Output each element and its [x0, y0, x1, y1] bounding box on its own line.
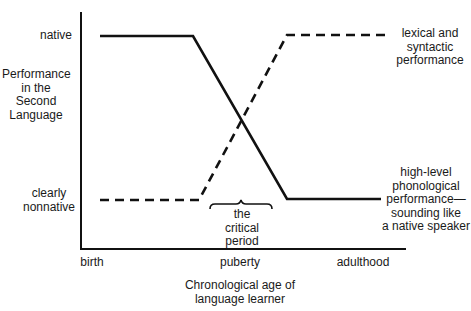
phonological-label: high-level phonological performance— sou… — [381, 166, 471, 234]
series-label-line: a native speaker — [381, 220, 471, 234]
series-label-line: syntactic — [390, 41, 470, 55]
lexical-syntactic-performance-line — [100, 35, 386, 200]
y-top-label: native — [30, 29, 72, 43]
y-axis-title-line: in the — [2, 82, 70, 96]
critical-period-line: critical — [214, 222, 270, 236]
y-axis-title-line: Second — [2, 95, 70, 109]
x-axis-title-line: language learner — [175, 293, 305, 307]
series-label-line: phonological — [381, 180, 471, 194]
x-axis-title: Chronological age of language learner — [175, 279, 305, 306]
critical-period-line: the — [214, 208, 270, 222]
series-label-line: lexical and — [390, 27, 470, 41]
series-label-line: high-level — [381, 166, 471, 180]
x-tick-birth: birth — [72, 256, 112, 270]
series-label-line: performance — [390, 54, 470, 68]
series-label-line: performance— — [381, 193, 471, 207]
y-bottom-label-line: nonnative — [22, 201, 76, 215]
series-label-line: sounding like — [381, 207, 471, 221]
x-tick-puberty: puberty — [212, 256, 268, 270]
y-bottom-label-line: clearly — [22, 187, 76, 201]
phonological-performance-line — [100, 36, 381, 199]
critical-period-label: the critical period — [214, 208, 270, 249]
y-axis-title-line: Performance — [2, 68, 70, 82]
y-bottom-label: clearly nonnative — [22, 187, 76, 214]
y-axis-title-line: Language — [2, 109, 70, 123]
x-tick-adulthood: adulthood — [328, 256, 398, 270]
x-axis-title-line: Chronological age of — [175, 279, 305, 293]
y-axis-title: Performance in the Second Language — [2, 68, 70, 122]
lexical-syntactic-label: lexical and syntactic performance — [390, 27, 470, 68]
critical-period-line: period — [214, 235, 270, 249]
